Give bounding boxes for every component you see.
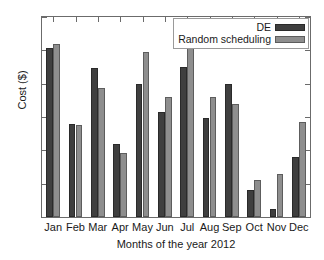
legend-swatch-de (275, 24, 305, 31)
x-axis-tick (53, 17, 54, 22)
bar-dec-de (292, 157, 299, 217)
bar-feb-random-scheduling (76, 125, 83, 217)
bar-jul-de (180, 67, 187, 217)
y-axis-tick (305, 50, 310, 51)
bar-may-de (136, 84, 143, 217)
bar-dec-random-scheduling (299, 122, 306, 217)
bar-jun-random-scheduling (165, 97, 172, 217)
bar-apr-random-scheduling (120, 153, 127, 217)
legend-item-random-scheduling: Random scheduling (178, 33, 305, 45)
legend-label-de: DE (256, 22, 271, 33)
bar-jun-de (158, 112, 165, 217)
y-axis-tick (305, 117, 310, 118)
bar-mar-de (91, 68, 98, 217)
bar-sep-random-scheduling (232, 104, 239, 217)
y-axis-tick (305, 84, 310, 85)
y-axis-title: Cost ($) (16, 30, 28, 150)
x-axis-tick-label: Dec (279, 222, 319, 233)
bar-aug-de (203, 118, 210, 217)
bar-oct-random-scheduling (254, 180, 261, 217)
y-axis-tick (305, 217, 310, 218)
bar-oct-de (247, 190, 254, 217)
bar-nov-de (270, 209, 277, 217)
legend-item-de: DE (178, 21, 305, 33)
x-axis-title: Months of the year 2012 (41, 238, 311, 250)
y-axis-tick (305, 150, 310, 151)
bar-sep-de (225, 84, 232, 217)
bar-aug-random-scheduling (210, 97, 217, 217)
y-axis-tick (305, 184, 310, 185)
bar-mar-random-scheduling (98, 88, 105, 217)
bar-jan-random-scheduling (53, 44, 60, 217)
bar-jan-de (46, 48, 53, 217)
x-axis-tick (165, 17, 166, 22)
bar-jul-random-scheduling (187, 30, 194, 217)
bar-chart-figure: Cost ($) 115120125130135140145JanFebMarA… (0, 0, 324, 260)
bar-nov-random-scheduling (277, 174, 284, 217)
chart-legend: DE Random scheduling (173, 18, 309, 49)
x-axis-tick (76, 17, 77, 22)
x-axis-tick (143, 17, 144, 22)
x-axis-tick (98, 17, 99, 22)
legend-label-random-scheduling: Random scheduling (178, 34, 271, 45)
bar-may-random-scheduling (143, 52, 150, 217)
y-axis-tick (42, 217, 47, 218)
plot-area: 115120125130135140145JanFebMarAprMayJunJ… (41, 16, 311, 218)
bar-feb-de (69, 124, 76, 217)
y-axis-tick (42, 17, 47, 18)
bar-apr-de (113, 144, 120, 217)
legend-swatch-random-scheduling (275, 36, 305, 43)
x-axis-tick (120, 17, 121, 22)
